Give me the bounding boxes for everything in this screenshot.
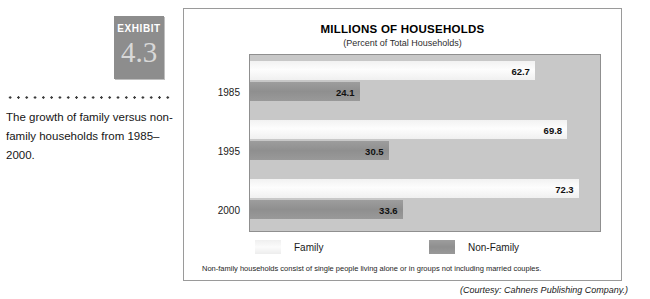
bar-family-1985: 62.7 bbox=[250, 61, 535, 80]
bar-nonfamily-2000: 33.6 bbox=[250, 200, 403, 219]
legend-item-nonfamily: Non-Family bbox=[429, 240, 519, 254]
bar-value-nonfamily-2000: 33.6 bbox=[379, 204, 398, 215]
plot-area: 1985 62.7 24.1 1995 69.8 30.5 2000 72.3 … bbox=[249, 54, 601, 232]
exhibit-word: EXHIBIT bbox=[114, 23, 164, 34]
bar-family-1995: 69.8 bbox=[250, 120, 567, 139]
legend-label-family: Family bbox=[294, 242, 323, 253]
exhibit-caption: The growth of family versus non-family h… bbox=[6, 108, 178, 165]
courtesy-credit: (Courtesy: Cahners Publishing Company.) bbox=[0, 285, 628, 295]
exhibit-number: 4.3 bbox=[114, 36, 164, 68]
chart-footnote: Non-family households consist of single … bbox=[202, 264, 607, 274]
exhibit-badge: EXHIBIT 4.3 bbox=[114, 16, 164, 79]
chart-title: MILLIONS OF HOUSEHOLDS bbox=[184, 23, 621, 35]
chart-legend: Family Non-Family bbox=[249, 240, 601, 256]
bar-value-family-2000: 72.3 bbox=[555, 183, 574, 194]
legend-swatch-nonfamily-icon bbox=[429, 240, 455, 254]
bar-value-family-1985: 62.7 bbox=[511, 65, 530, 76]
bar-value-nonfamily-1985: 24.1 bbox=[336, 86, 355, 97]
bar-group-1995: 1995 69.8 30.5 bbox=[250, 120, 600, 160]
legend-label-nonfamily: Non-Family bbox=[468, 242, 519, 253]
category-label-2000: 2000 bbox=[188, 205, 240, 216]
bar-group-1985: 1985 62.7 24.1 bbox=[250, 61, 600, 101]
category-label-1985: 1985 bbox=[188, 87, 240, 98]
category-label-1995: 1995 bbox=[188, 146, 240, 157]
legend-item-family: Family bbox=[255, 240, 323, 254]
legend-swatch-family-icon bbox=[255, 240, 281, 254]
dotted-divider bbox=[6, 96, 172, 99]
bar-group-2000: 2000 72.3 33.6 bbox=[250, 179, 600, 219]
exhibit-left-column: EXHIBIT 4.3 The growth of family versus … bbox=[0, 0, 180, 299]
bar-nonfamily-1985: 24.1 bbox=[250, 82, 360, 101]
bar-value-family-1995: 69.8 bbox=[544, 124, 563, 135]
bar-family-2000: 72.3 bbox=[250, 179, 579, 198]
bar-nonfamily-1995: 30.5 bbox=[250, 141, 389, 160]
chart-panel: MILLIONS OF HOUSEHOLDS (Percent of Total… bbox=[183, 8, 622, 281]
bar-value-nonfamily-1995: 30.5 bbox=[365, 145, 384, 156]
chart-subtitle: (Percent of Total Households) bbox=[184, 38, 621, 48]
